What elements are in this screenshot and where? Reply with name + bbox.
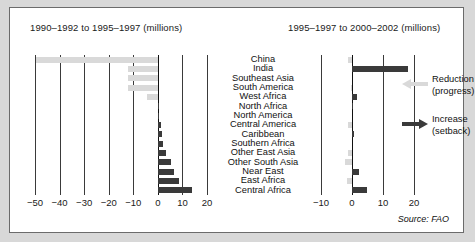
bar-row	[321, 186, 414, 195]
reduction-bar	[128, 75, 157, 81]
increase-bar	[352, 103, 353, 109]
increase-bar	[158, 103, 159, 109]
bar-row	[35, 55, 207, 64]
right-arrow-icon	[402, 119, 428, 129]
increase-bar	[158, 141, 164, 147]
axis-tick-label: 20	[409, 197, 420, 208]
bar-row	[35, 167, 207, 176]
reduction-bar	[345, 159, 352, 165]
bar-row	[35, 139, 207, 148]
bar-row	[321, 120, 414, 129]
bar-row	[321, 139, 414, 148]
increase-bar	[352, 169, 359, 175]
reduction-bar	[147, 94, 158, 100]
axis-tick-label: −40	[52, 197, 68, 208]
reduction-bar	[348, 122, 352, 128]
increase-bar	[158, 169, 174, 175]
legend-label-reduction-line2: (progress)	[432, 86, 474, 98]
axis-tick-label: 0	[155, 197, 160, 208]
bar-row	[321, 55, 414, 64]
left-chart-panel	[35, 55, 207, 195]
increase-bar	[158, 113, 159, 119]
axis-tick-label: 0	[349, 197, 354, 208]
axis-tick-label: −10	[125, 197, 141, 208]
axis-tick-label: −20	[101, 197, 117, 208]
bar-row	[35, 74, 207, 83]
legend-label-increase-line1: Increase	[432, 114, 470, 126]
category-labels: ChinaIndiaSoutheast AsiaSouth AmericaWes…	[208, 55, 318, 195]
axis-tick-label: 10	[177, 197, 188, 208]
bar-row	[35, 130, 207, 139]
bar-row	[35, 92, 207, 101]
bar-row	[35, 158, 207, 167]
bar-row	[35, 148, 207, 157]
reduction-bar	[347, 178, 352, 184]
bar-row	[35, 111, 207, 120]
reduction-bar	[348, 57, 352, 63]
bar-row	[35, 83, 207, 92]
increase-bar	[158, 159, 171, 165]
increase-bar	[158, 150, 166, 156]
increase-bar	[158, 178, 179, 184]
increase-bar	[158, 187, 192, 193]
bar-row	[321, 111, 414, 120]
increase-bar	[352, 94, 357, 100]
axis-tick-label: −30	[76, 197, 92, 208]
left-arrow-icon	[402, 79, 428, 89]
increase-bar	[352, 66, 408, 72]
bar-row	[321, 92, 414, 101]
axis-tick-label: −10	[313, 197, 329, 208]
right-axis-ticks: −1001020	[321, 197, 414, 211]
axis-tick-label: 20	[202, 197, 213, 208]
source-note: Source: FAO	[398, 214, 449, 224]
bar-row	[321, 167, 414, 176]
legend-item-increase: Increase (setback)	[402, 114, 474, 140]
reduction-bar	[128, 85, 157, 91]
bar-row	[35, 176, 207, 185]
bar-row	[35, 64, 207, 73]
bar-row	[321, 74, 414, 83]
chart-figure: 1990–1992 to 1995–1997 (millions) 1995–1…	[9, 7, 464, 233]
increase-bar	[352, 187, 367, 193]
legend-label-reduction: Reduction (progress)	[432, 74, 474, 97]
bar-row	[35, 120, 207, 129]
legend-item-reduction: Reduction (progress)	[402, 74, 474, 100]
bar-row	[35, 102, 207, 111]
bar-row	[321, 158, 414, 167]
reduction-bar	[351, 85, 352, 91]
left-panel-title: 1990–1992 to 1995–1997 (millions)	[30, 22, 182, 33]
reduction-bar	[348, 150, 352, 156]
bar-row	[321, 83, 414, 92]
increase-bar	[352, 131, 354, 137]
legend-label-increase: Increase (setback)	[432, 114, 470, 137]
increase-bar	[158, 131, 162, 137]
reduction-bar	[36, 57, 158, 63]
legend-label-reduction-line1: Reduction	[432, 74, 474, 86]
left-axis-ticks: −50−40−30−20−1001020	[35, 197, 207, 211]
axis-tick-label: 10	[378, 197, 389, 208]
bar-row	[321, 130, 414, 139]
chart-legend: Reduction (progress) Increase (setback)	[402, 74, 474, 154]
reduction-bar	[128, 66, 157, 72]
legend-label-increase-line2: (setback)	[432, 126, 470, 138]
bar-row	[35, 186, 207, 195]
increase-bar	[158, 122, 161, 128]
bar-row	[321, 176, 414, 185]
bar-row	[321, 64, 414, 73]
right-chart-panel	[321, 55, 414, 195]
category-label: Central Africa	[208, 186, 318, 195]
bar-row	[321, 102, 414, 111]
axis-tick-label: −50	[27, 197, 43, 208]
left-bar-rows	[35, 55, 207, 195]
right-bar-rows	[321, 55, 414, 195]
bar-row	[321, 148, 414, 157]
right-panel-title: 1995–1997 to 2000–2002 (millions)	[288, 22, 440, 33]
